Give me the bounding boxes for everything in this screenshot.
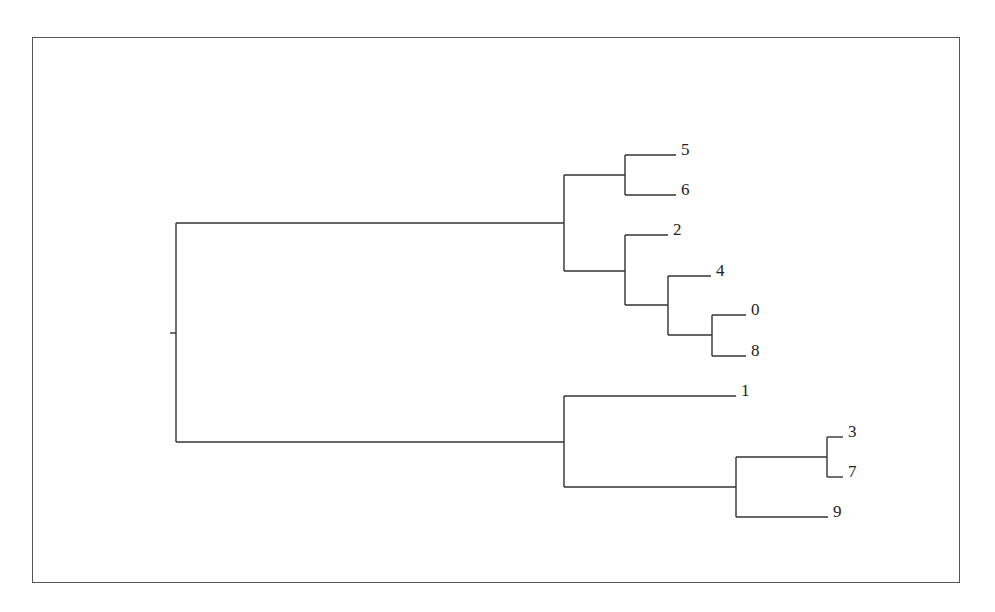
leaf-label: 4 [716,261,725,280]
leaf-label: 9 [833,502,842,521]
leaf-label: 5 [681,140,690,159]
leaf-label: 7 [848,462,857,481]
leaf-label: 8 [751,341,760,360]
leaf-label: 3 [848,422,857,441]
leaf-label: 6 [681,180,690,199]
leaf-label: 2 [673,220,682,239]
dendrogram: 5624081379 [0,0,995,612]
leaf-label: 1 [741,381,750,400]
leaf-label: 0 [751,300,760,319]
